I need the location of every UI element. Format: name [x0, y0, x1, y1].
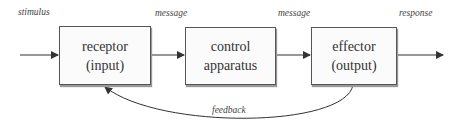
effector-sublabel: (output): [331, 56, 376, 75]
receptor-label: receptor: [82, 37, 128, 56]
control-sublabel: apparatus: [204, 56, 258, 75]
response-label: response: [399, 8, 432, 18]
effector-label: effector: [332, 37, 375, 56]
stimulus-label: stimulus: [18, 7, 50, 17]
control-box: control apparatus: [185, 27, 276, 85]
receptor-sublabel: (input): [86, 56, 124, 75]
message-label-2: message: [278, 8, 310, 18]
feedback-label: feedback: [212, 105, 246, 115]
receptor-box: receptor (input): [59, 26, 151, 85]
control-label: control: [211, 37, 251, 56]
message-label-1: message: [155, 8, 187, 18]
effector-box: effector (output): [311, 27, 397, 85]
